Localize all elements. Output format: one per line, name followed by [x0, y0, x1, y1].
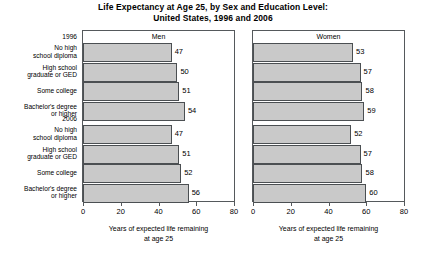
category-label-line: No high [0, 126, 77, 134]
year-label-1996: 1996 [0, 33, 77, 41]
bar [253, 164, 362, 183]
x-tick-label-women: 0 [251, 207, 255, 216]
bar-row: 52 [83, 164, 234, 183]
category-label-line: school diploma [0, 52, 77, 60]
bar-group-1996: 47505154 [83, 43, 234, 121]
x-tick-men [196, 202, 197, 206]
x-tick-women [253, 202, 254, 206]
bar-row: 54 [83, 102, 234, 121]
chart-figure: Life Expectancy at Age 25, by Sex and Ed… [0, 0, 426, 255]
bar-row: 51 [83, 82, 234, 101]
bar-row: 51 [83, 145, 234, 164]
bar-value-label: 57 [364, 67, 372, 76]
x-tick-label-men: 20 [117, 207, 125, 216]
category-label: Some college [0, 169, 77, 177]
year-label-2006: 2006 [0, 115, 77, 123]
bar [83, 82, 179, 101]
bar-value-label: 53 [356, 47, 364, 56]
plot-area-women: 5357585952575860 [253, 43, 404, 201]
x-tick-label-women: 80 [400, 207, 408, 216]
x-axis-caption-men: Years of expected life remaining at age … [82, 224, 235, 243]
bar-row: 57 [253, 145, 404, 164]
category-label-line: High school [0, 146, 77, 154]
bar [83, 43, 172, 62]
category-label: No highschool diploma [0, 44, 77, 59]
category-label-line: graduate or GED [0, 71, 77, 79]
x-tick-label-women: 60 [362, 207, 370, 216]
bar-value-label: 57 [364, 149, 372, 158]
category-label-line: school diploma [0, 134, 77, 142]
x-tick-label-women: 20 [287, 207, 295, 216]
x-tick-women [366, 202, 367, 206]
x-tick-men [83, 202, 84, 206]
bar [83, 63, 177, 82]
x-tick-label-men: 40 [154, 207, 162, 216]
bar-row: 57 [253, 63, 404, 82]
category-label-line: Some college [0, 169, 77, 177]
panel-women: Women 5357585952575860 [252, 30, 405, 202]
category-label: Bachelor's degreeor higher [0, 185, 77, 200]
x-axis-caption-women-line-2: at age 25 [252, 234, 405, 244]
x-axis-women: 020406080 [252, 202, 405, 224]
bar [253, 43, 353, 62]
x-tick-label-women: 40 [324, 207, 332, 216]
chart-title-line-1: Life Expectancy at Age 25, by Sex and Ed… [0, 2, 426, 13]
bar-row: 52 [253, 125, 404, 144]
x-tick-women [329, 202, 330, 206]
x-axis-caption-men-line-2: at age 25 [82, 234, 235, 244]
bar [253, 184, 366, 203]
bar-row: 58 [253, 164, 404, 183]
x-axis-caption-men-line-1: Years of expected life remaining [82, 224, 235, 234]
bar [253, 145, 361, 164]
bar-row: 56 [83, 184, 234, 203]
bar-group-2006: 47515256 [83, 125, 234, 203]
category-label-line: or higher [0, 192, 77, 200]
x-tick-men [121, 202, 122, 206]
category-label: High schoolgraduate or GED [0, 146, 77, 161]
bar-value-label: 60 [369, 188, 377, 197]
category-label-line: No high [0, 44, 77, 52]
bar-value-label: 52 [354, 129, 362, 138]
panel-men: Men 4750515447515256 [82, 30, 235, 202]
category-label-line: High school [0, 64, 77, 72]
bar-value-label: 51 [182, 86, 190, 95]
x-axis-caption-women: Years of expected life remaining at age … [252, 224, 405, 243]
bar [253, 102, 364, 121]
category-label: High schoolgraduate or GED [0, 64, 77, 79]
bar-row: 60 [253, 184, 404, 203]
bar-value-label: 59 [367, 106, 375, 115]
x-tick-label-men: 0 [81, 207, 85, 216]
bar-value-label: 56 [192, 188, 200, 197]
chart-title: Life Expectancy at Age 25, by Sex and Ed… [0, 2, 426, 24]
panel-men-header: Men [83, 31, 234, 43]
category-label: Some college [0, 87, 77, 95]
category-label-line: Bachelor's degree [0, 103, 77, 111]
category-label: No highschool diploma [0, 126, 77, 141]
bar [253, 82, 362, 101]
x-tick-men [159, 202, 160, 206]
bar-value-label: 47 [175, 47, 183, 56]
bar [253, 63, 361, 82]
bar-value-label: 52 [184, 168, 192, 177]
x-tick-women [291, 202, 292, 206]
bar-row: 50 [83, 63, 234, 82]
bar-row: 47 [83, 125, 234, 144]
panel-women-header: Women [253, 31, 404, 43]
x-axis-men: 020406080 [82, 202, 235, 224]
x-tick-label-men: 60 [192, 207, 200, 216]
x-tick-men [234, 202, 235, 206]
plot-area-men: 4750515447515256 [83, 43, 234, 201]
x-tick-label-men: 80 [230, 207, 238, 216]
bar-value-label: 47 [175, 129, 183, 138]
bar [83, 102, 185, 121]
bar-value-label: 58 [365, 86, 373, 95]
bar [83, 164, 181, 183]
category-label-line: Some college [0, 87, 77, 95]
category-label-line: graduate or GED [0, 153, 77, 161]
bar [83, 125, 172, 144]
bar-group-1996: 53575859 [253, 43, 404, 121]
bar-row: 59 [253, 102, 404, 121]
bar-row: 58 [253, 82, 404, 101]
bar-group-2006: 52575860 [253, 125, 404, 203]
bar [83, 145, 179, 164]
